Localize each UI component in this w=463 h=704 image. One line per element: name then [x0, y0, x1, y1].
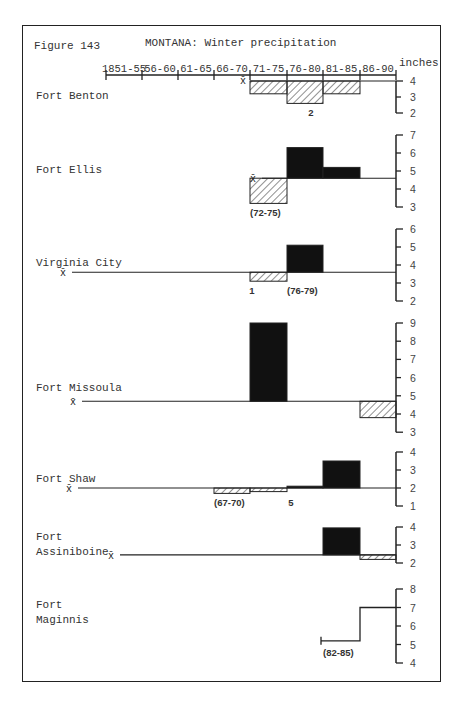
bar-annotation: 5: [288, 497, 294, 508]
step-line: [321, 608, 396, 645]
y-tick-label: 2: [410, 482, 416, 494]
bar-above-mean: [287, 245, 323, 272]
y-tick-label: 4: [410, 75, 416, 87]
period-label: 86-90: [362, 63, 394, 75]
y-tick-label: 3: [410, 91, 416, 103]
bar-above-mean: [323, 528, 360, 555]
y-tick-label: 4: [410, 446, 416, 458]
bar-below-mean: [250, 178, 287, 203]
y-tick-label: 3: [410, 426, 416, 438]
y-tick-label: 8: [410, 335, 416, 347]
mean-symbol: x̄: [240, 76, 246, 87]
y-tick-label: 8: [410, 583, 416, 595]
y-tick-label: 7: [410, 602, 416, 614]
bar-below-mean: [323, 81, 360, 94]
bar-annotation: 2: [308, 107, 313, 118]
bar-below-mean: [250, 272, 287, 281]
bar-below-mean: [250, 488, 287, 492]
bar-annotation: (82-85): [323, 647, 354, 658]
bar-above-mean: [250, 323, 287, 401]
bar-below-mean: [287, 81, 323, 103]
y-tick-label: 2: [410, 107, 416, 119]
y-tick-label: 6: [410, 372, 416, 384]
bar-annotation: (72-75): [250, 207, 281, 218]
y-tick-label: 3: [410, 201, 416, 213]
bar-annotation: (67-70): [214, 497, 245, 508]
bar-above-mean: [287, 148, 323, 179]
mean-symbol: x̄: [70, 397, 76, 408]
y-tick-label: 4: [410, 408, 416, 420]
y-tick-label: 4: [410, 657, 416, 669]
y-tick-label: 2: [410, 295, 416, 307]
mean-symbol: x̄: [66, 484, 72, 495]
period-label: 1851-55: [102, 63, 146, 75]
y-tick-label: 1: [410, 500, 416, 512]
period-label: 81-85: [326, 63, 358, 75]
y-tick-label: 6: [410, 147, 416, 159]
bar-annotation: (76-79): [287, 285, 318, 296]
y-tick-label: 9: [410, 317, 416, 329]
y-tick-label: 5: [410, 639, 416, 651]
y-tick-label: 5: [410, 390, 416, 402]
period-label: 71-75: [253, 63, 285, 75]
mean-symbol: x̄: [108, 551, 114, 562]
bar-below-mean: [360, 401, 396, 417]
bar-below-mean: [214, 488, 250, 493]
period-label: 61-65: [180, 63, 212, 75]
y-tick-label: 3: [410, 539, 416, 551]
y-tick-label: 4: [410, 183, 416, 195]
y-tick-label: 4: [410, 521, 416, 533]
y-tick-label: 3: [410, 277, 416, 289]
period-label: 66-70: [216, 63, 248, 75]
bar-annotation: 1: [249, 285, 255, 296]
y-tick-label: 5: [410, 241, 416, 253]
y-tick-label: 2: [410, 557, 416, 569]
bar-below-mean: [360, 555, 396, 560]
bar-above-mean: [323, 167, 360, 178]
y-tick-label: 6: [410, 223, 416, 235]
bar-below-mean: [250, 81, 287, 94]
period-label: 56-60: [144, 63, 176, 75]
mean-symbol: x̄: [60, 268, 66, 279]
precipitation-chart: 1851-5556-6061-6566-7071-7576-8081-8586-…: [0, 0, 463, 704]
y-tick-label: 4: [410, 259, 416, 271]
y-tick-label: 6: [410, 620, 416, 632]
y-tick-label: 3: [410, 464, 416, 476]
y-tick-label: 7: [410, 129, 416, 141]
period-label: 76-80: [289, 63, 321, 75]
bar-above-mean: [323, 461, 360, 488]
y-tick-label: 7: [410, 353, 416, 365]
y-tick-label: 5: [410, 165, 416, 177]
bar-above-mean: [287, 486, 323, 488]
